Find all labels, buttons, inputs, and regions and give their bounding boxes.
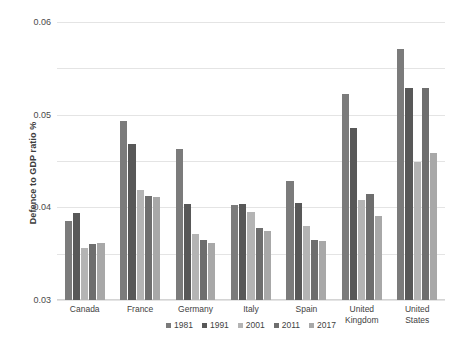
legend-label: 2011 bbox=[282, 320, 300, 330]
legend-label: 2001 bbox=[246, 320, 265, 330]
bar-group bbox=[334, 22, 389, 300]
bar-group bbox=[223, 22, 278, 300]
bar[interactable] bbox=[176, 149, 183, 300]
bar-group-bars bbox=[397, 22, 437, 300]
y-axis-tick-label: 0.04 bbox=[33, 202, 51, 212]
bar-group bbox=[57, 22, 112, 300]
y-axis-tick-label: 0.06 bbox=[33, 17, 51, 27]
x-axis-category-label-line: United bbox=[390, 304, 445, 315]
bar[interactable] bbox=[184, 204, 191, 300]
legend-swatch-icon bbox=[274, 323, 279, 328]
bar[interactable] bbox=[303, 226, 310, 300]
x-axis-category-label-line: Italy bbox=[223, 304, 278, 315]
legend-swatch-icon bbox=[166, 323, 171, 328]
bar[interactable] bbox=[256, 228, 263, 300]
legend-label: 1991 bbox=[210, 320, 229, 330]
x-axis-category-label-line: Germany bbox=[168, 304, 223, 315]
legend-swatch-icon bbox=[309, 323, 314, 328]
bar[interactable] bbox=[231, 205, 238, 300]
bar[interactable] bbox=[192, 234, 199, 300]
bar[interactable] bbox=[89, 244, 96, 300]
bar[interactable] bbox=[81, 248, 88, 300]
bar-group-bars bbox=[286, 22, 326, 300]
bar-groups bbox=[57, 22, 445, 300]
bar-group-bars bbox=[65, 22, 105, 300]
bar-group-bars bbox=[176, 22, 216, 300]
bar[interactable] bbox=[366, 194, 373, 300]
chart-legend: 19811991200120112017 bbox=[57, 320, 445, 330]
bar-group bbox=[279, 22, 334, 300]
bar[interactable] bbox=[286, 181, 293, 300]
legend-item-1991[interactable]: 1991 bbox=[202, 320, 229, 330]
bar[interactable] bbox=[405, 88, 412, 300]
bar[interactable] bbox=[422, 88, 429, 300]
bar[interactable] bbox=[137, 190, 144, 300]
bar[interactable] bbox=[358, 200, 365, 300]
bar-group-bars bbox=[342, 22, 382, 300]
bar[interactable] bbox=[120, 121, 127, 300]
x-axis-category-label-line: France bbox=[112, 304, 167, 315]
bar[interactable] bbox=[295, 203, 302, 300]
legend-label: 1981 bbox=[174, 320, 193, 330]
bar[interactable] bbox=[264, 231, 271, 301]
bar[interactable] bbox=[65, 221, 72, 300]
y-axis-tick-label: 0.05 bbox=[33, 110, 51, 120]
legend-item-2001[interactable]: 2001 bbox=[238, 320, 265, 330]
legend-item-2017[interactable]: 2017 bbox=[309, 320, 336, 330]
bar[interactable] bbox=[239, 204, 246, 300]
bar[interactable] bbox=[97, 243, 104, 300]
bar[interactable] bbox=[153, 197, 160, 300]
legend-swatch-icon bbox=[238, 323, 243, 328]
legend-swatch-icon bbox=[202, 323, 207, 328]
bar-group bbox=[168, 22, 223, 300]
bar[interactable] bbox=[145, 196, 152, 300]
bar[interactable] bbox=[311, 240, 318, 300]
bar-group-bars bbox=[120, 22, 160, 300]
legend-label: 2017 bbox=[317, 320, 336, 330]
bar[interactable] bbox=[247, 212, 254, 300]
bar[interactable] bbox=[350, 128, 357, 300]
bar[interactable] bbox=[414, 162, 421, 300]
bar-group bbox=[112, 22, 167, 300]
bar[interactable] bbox=[319, 241, 326, 300]
legend-item-2011[interactable]: 2011 bbox=[274, 320, 300, 330]
x-axis-category-label-line: United bbox=[334, 304, 389, 315]
bar[interactable] bbox=[375, 216, 382, 300]
x-axis-category-label-line: Canada bbox=[57, 304, 112, 315]
bar[interactable] bbox=[208, 243, 215, 300]
x-axis-category-label-line: Spain bbox=[279, 304, 334, 315]
bar-chart: Defence to GDP ratio % 0.060.050.040.030… bbox=[0, 0, 455, 346]
bar[interactable] bbox=[128, 144, 135, 300]
bar[interactable] bbox=[200, 240, 207, 300]
bar[interactable] bbox=[73, 213, 80, 300]
bar-group bbox=[390, 22, 445, 300]
bar-group-bars bbox=[231, 22, 271, 300]
gridline: 0 bbox=[57, 300, 445, 301]
bar[interactable] bbox=[397, 49, 404, 300]
plot-area: 0.060.050.040.030.020.010 bbox=[57, 22, 445, 300]
legend-item-1981[interactable]: 1981 bbox=[166, 320, 193, 330]
y-axis-tick-label: 0.03 bbox=[33, 295, 51, 305]
bar[interactable] bbox=[430, 153, 437, 300]
bar[interactable] bbox=[342, 94, 349, 300]
